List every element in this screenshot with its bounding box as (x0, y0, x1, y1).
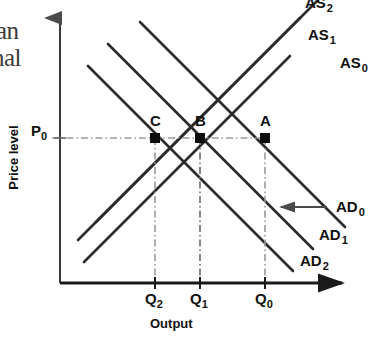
curve-spacer (90, 38, 302, 250)
curve-ad-2 (88, 66, 293, 271)
curve-label-as-1-sub: 1 (330, 34, 336, 46)
curve-label-as-2: AS2 (305, 0, 332, 11)
curve-spacer-3 (105, 0, 300, 195)
curve-as-1 (78, 18, 300, 240)
ad-as-chart-svg (0, 0, 387, 339)
y-tick-label-p0-base: P (31, 122, 41, 139)
x-tick-label-q2: Q2 (145, 290, 163, 307)
curve-label-as-1: AS1 (308, 26, 335, 43)
equilibrium-marker-b (195, 133, 205, 143)
x-tick-label-q0-base: Q (255, 290, 267, 307)
curve-ad-0 (140, 22, 345, 227)
curve-label-as-1-base: AS (308, 26, 329, 43)
y-tick-label-p0-sub: 0 (41, 130, 47, 142)
y-axis-label: Price level (6, 113, 21, 203)
curve-as-0 (84, 56, 290, 262)
x-tick-label-q0: Q0 (255, 290, 273, 307)
point-label-b: B (195, 112, 206, 129)
equilibrium-marker-c (150, 133, 160, 143)
curve-label-ad-0-base: AD (336, 198, 358, 215)
point-label-a: A (260, 112, 271, 129)
curve-ad-1 (108, 44, 313, 249)
equilibrium-marker-a (260, 133, 270, 143)
curve-label-ad-2-sub: 2 (323, 260, 329, 272)
curve-label-as-0-base: AS (340, 54, 361, 71)
x-tick-label-q1-base: Q (190, 290, 202, 307)
x-tick-label-q1: Q1 (190, 290, 208, 307)
point-label-c: C (150, 112, 161, 129)
curve-label-ad-1-sub: 1 (342, 234, 348, 246)
x-axis-label: Output (150, 316, 193, 331)
figure-container: an nal (0, 0, 387, 339)
curve-as-1-ghost (42, 16, 248, 222)
curve-label-ad-1: AD1 (319, 226, 347, 243)
curve-label-ad-1-base: AD (319, 226, 341, 243)
x-tick-label-q1-sub: 1 (202, 298, 208, 310)
y-tick-label-p0: P0 (31, 122, 47, 139)
x-tick-label-q2-sub: 2 (157, 298, 163, 310)
curve-label-ad-0-sub: 0 (359, 206, 365, 218)
curve-label-as-2-base: AS (305, 0, 326, 11)
curve-label-as-2-sub: 2 (327, 2, 333, 14)
curve-label-ad-2: AD2 (300, 252, 328, 269)
curve-as1-ghost2 (96, 41, 307, 252)
curve-label-as-0: AS0 (340, 54, 367, 71)
x-tick-label-q0-sub: 0 (267, 298, 273, 310)
curve-label-ad-0: AD0 (336, 198, 364, 215)
curve-label-as-0-sub: 0 (362, 62, 368, 74)
x-tick-label-q2-base: Q (145, 290, 157, 307)
curve-label-ad-2-base: AD (300, 252, 322, 269)
